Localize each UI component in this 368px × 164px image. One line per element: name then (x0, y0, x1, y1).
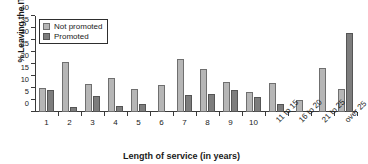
x-tick-label: 8 (205, 118, 209, 127)
y-tick-label: 25 (21, 39, 29, 48)
x-tick (81, 112, 82, 116)
chart-legend: Not promoted Promoted (39, 19, 108, 44)
x-tick-label: 5 (136, 118, 140, 127)
y-tick-label: 5 (25, 87, 29, 96)
y-tick (31, 51, 35, 52)
x-tick-label: 1 (44, 118, 48, 127)
x-tick (173, 112, 174, 116)
y-tick (31, 63, 35, 64)
y-tick (31, 111, 35, 112)
bar-promoted (208, 94, 215, 112)
bar-not-promoted (158, 85, 165, 112)
bar-not-promoted (223, 82, 230, 112)
y-axis-line (35, 16, 36, 112)
x-tick (58, 112, 59, 116)
legend-swatch-icon-promoted (43, 33, 50, 40)
y-tick-label: 0 (25, 99, 29, 108)
bar-not-promoted (131, 89, 138, 112)
y-tick (31, 75, 35, 76)
bar-not-promoted (246, 92, 253, 112)
bar-not-promoted (39, 88, 46, 112)
bar-not-promoted (177, 59, 184, 112)
x-tick (196, 112, 197, 116)
x-tick-label: 3 (90, 118, 94, 127)
x-tick-label: 2 (67, 118, 71, 127)
y-tick (31, 87, 35, 88)
bar-promoted (47, 90, 54, 112)
y-tick (31, 27, 35, 28)
y-tick-label: 15 (21, 63, 29, 72)
legend-item-not-promoted: Not promoted (43, 22, 102, 31)
x-tick (242, 112, 243, 116)
bar-not-promoted (269, 83, 276, 112)
bar-promoted (254, 97, 261, 112)
x-tick-label: 4 (113, 118, 117, 127)
bar-not-promoted (108, 78, 115, 112)
x-tick-label: 10 (249, 118, 258, 127)
bar-not-promoted (62, 62, 69, 112)
x-tick (219, 112, 220, 116)
legend-item-promoted: Promoted (43, 32, 102, 41)
x-tick-label: 6 (159, 118, 163, 127)
y-tick (31, 15, 35, 16)
x-tick (150, 112, 151, 116)
y-tick-label: 30 (21, 27, 29, 36)
x-tick (104, 112, 105, 116)
legend-label-not-promoted: Not promoted (54, 22, 102, 31)
x-tick (265, 112, 266, 116)
bar-promoted (185, 95, 192, 112)
x-tick-label: 9 (228, 118, 232, 127)
y-tick-label: 20 (21, 51, 29, 60)
x-tick-label: 7 (182, 118, 186, 127)
bar-promoted (70, 107, 77, 112)
legend-swatch-icon-not-promoted (43, 23, 50, 30)
legend-label-promoted: Promoted (54, 32, 89, 41)
x-tick (127, 112, 128, 116)
x-axis-title: Length of service (in years) (0, 151, 363, 161)
y-tick-label: 10 (21, 75, 29, 84)
y-tick-label: 35 (21, 15, 29, 24)
bar-not-promoted (200, 69, 207, 112)
bar-promoted (346, 33, 353, 112)
bar-promoted (116, 106, 123, 112)
bar-not-promoted (85, 84, 92, 112)
bar-promoted (139, 104, 146, 112)
y-tick (31, 39, 35, 40)
y-tick-label: 40 (21, 3, 29, 12)
y-tick (31, 99, 35, 100)
bar-promoted (231, 90, 238, 112)
bar-promoted (93, 96, 100, 112)
